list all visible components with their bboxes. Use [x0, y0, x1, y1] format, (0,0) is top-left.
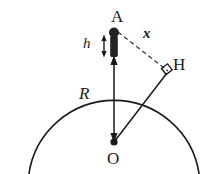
height-arrowhead-up: [101, 35, 106, 42]
label-height-h: h: [83, 36, 91, 51]
diagram-canvas: A H O R h x: [0, 0, 216, 174]
label-point-o: O: [107, 150, 119, 167]
label-point-a: A: [111, 8, 123, 25]
geometry-svg: [0, 0, 216, 174]
label-point-h: H: [173, 56, 185, 73]
label-radius-r: R: [79, 85, 89, 102]
observer-body: [110, 36, 118, 57]
center-point-dot: [110, 138, 117, 145]
observer-figure: [109, 28, 119, 58]
label-distance-x: x: [143, 26, 151, 41]
observer-head: [109, 28, 119, 38]
radius-to-horizon-line: [114, 73, 167, 142]
height-arrowhead-down: [101, 51, 106, 58]
